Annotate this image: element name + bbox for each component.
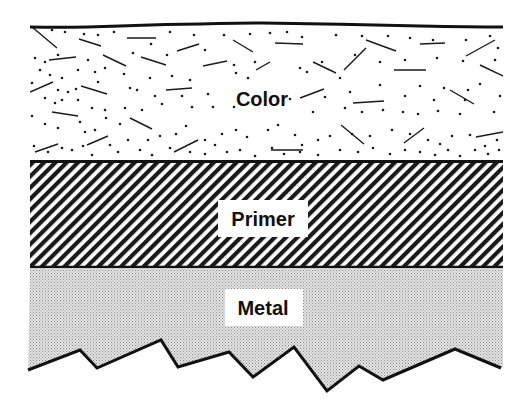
primer-label: Primer	[231, 208, 295, 230]
paint-layers-diagram: Color Primer Metal	[0, 0, 524, 408]
color-label: Color	[236, 88, 288, 110]
primer-layer: Primer	[30, 161, 503, 267]
metal-label: Metal	[237, 297, 288, 319]
color-layer: Color	[30, 23, 505, 161]
metal-layer: Metal	[28, 269, 503, 392]
